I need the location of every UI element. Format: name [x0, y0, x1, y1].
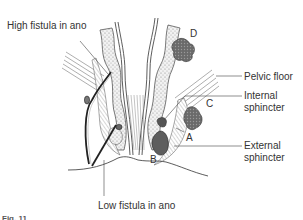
marker-d: D	[190, 29, 197, 39]
high-fistula-probe-tip	[84, 96, 89, 104]
abscess-c	[184, 107, 202, 130]
anal-canal-fibres	[128, 95, 144, 150]
label-internal-sphincter-1: Internal	[244, 90, 277, 101]
figure-caption: Fig. 11	[2, 214, 27, 220]
label-high-fistula: High fistula in ano	[7, 20, 87, 31]
label-internal-sphincter-2: sphincter	[244, 102, 285, 113]
marker-b: B	[150, 155, 157, 165]
fistula-diagram: High fistula in ano Low fistula in ano P…	[0, 0, 303, 220]
abscess-d	[172, 38, 195, 61]
label-external-sphincter-2: sphincter	[244, 152, 285, 163]
marker-c: C	[206, 99, 213, 109]
label-external-sphincter-1: External	[244, 140, 281, 151]
label-low-fistula: Low fistula in ano	[98, 200, 175, 211]
marker-a: A	[186, 133, 193, 143]
low-fistula-probe-tip	[116, 124, 122, 129]
label-pelvic-floor: Pelvic floor	[244, 71, 293, 82]
